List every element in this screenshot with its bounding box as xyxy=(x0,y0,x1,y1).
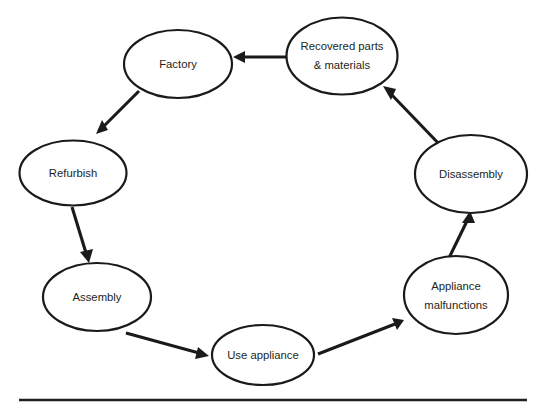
edge-line xyxy=(390,93,441,146)
arrow-head-icon xyxy=(195,347,209,359)
edge-line xyxy=(103,91,139,127)
node-label-line-2: & materials xyxy=(314,59,371,71)
node-appliance-malfunctions[interactable]: Appliance malfunctions xyxy=(404,256,508,334)
edge-disassembly-to-recovered xyxy=(383,86,441,146)
node-factory[interactable]: Factory xyxy=(124,30,232,98)
arrow-head-icon xyxy=(80,249,93,263)
edge-use-to-malfunctions xyxy=(318,318,404,354)
arrow-head-icon xyxy=(233,51,245,63)
edge-refurbish-to-assembly xyxy=(72,207,93,263)
node-label: Disassembly xyxy=(439,168,503,180)
edge-assembly-to-use xyxy=(126,333,209,359)
node-shape[interactable] xyxy=(287,18,398,95)
node-recovered-parts[interactable]: Recovered parts & materials xyxy=(287,18,398,95)
node-label-line-2: malfunctions xyxy=(424,299,488,311)
node-label-line-1: Recovered parts xyxy=(301,40,384,52)
node-assembly[interactable]: Assembly xyxy=(43,263,151,331)
node-label: Refurbish xyxy=(49,167,97,179)
node-label: Assembly xyxy=(73,291,122,303)
node-disassembly[interactable]: Disassembly xyxy=(415,135,527,213)
node-label: Use appliance xyxy=(227,349,299,361)
node-label-line-1: Appliance xyxy=(431,280,481,292)
edge-line xyxy=(126,333,199,353)
node-label: Factory xyxy=(159,58,197,70)
edge-malfunctions-to-disassembly xyxy=(447,211,475,262)
edge-line xyxy=(318,324,395,354)
edge-recovered-to-factory xyxy=(233,51,288,63)
node-layer: Recovered parts & materials Factory Refu… xyxy=(20,18,528,386)
cycle-flow-diagram: Recovered parts & materials Factory Refu… xyxy=(0,0,546,415)
node-refurbish[interactable]: Refurbish xyxy=(20,141,127,206)
node-shape[interactable] xyxy=(404,256,508,334)
diagram-canvas: Recovered parts & materials Factory Refu… xyxy=(0,0,546,415)
edge-factory-to-refurbish xyxy=(96,91,139,134)
edge-line xyxy=(72,207,86,253)
node-use-appliance[interactable]: Use appliance xyxy=(212,325,314,385)
